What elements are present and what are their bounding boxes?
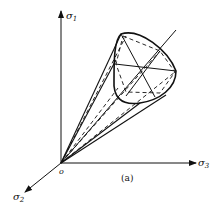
figure-caption: (a) — [121, 173, 133, 183]
axes — [25, 11, 196, 192]
sigma2-label: σ2 — [13, 191, 25, 204]
sigma1-label: σ1 — [66, 10, 77, 23]
deviatoric-section-polygon — [116, 36, 175, 93]
sigma2-axis — [25, 163, 61, 192]
sigma3-label: σ3 — [198, 157, 210, 170]
origin-label: o — [59, 167, 64, 176]
yield-surface-diagram: σ1 σ3 σ2 o (a) — [0, 0, 219, 210]
cone-generators — [61, 34, 166, 163]
